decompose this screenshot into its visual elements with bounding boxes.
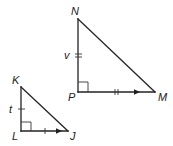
similar-triangles-diagram: N v P M K t L J	[0, 0, 173, 146]
arrow-icon-pm	[134, 89, 140, 95]
vertex-label-p: P	[68, 91, 76, 103]
triangle-klj: K t L J	[9, 74, 76, 142]
side-nm-hypotenuse	[78, 19, 155, 92]
side-label-v: v	[64, 49, 71, 61]
side-label-t: t	[9, 103, 13, 115]
vertex-label-k: K	[12, 74, 20, 86]
triangle-npm: N v P M	[64, 5, 168, 103]
right-angle-marker-p	[78, 82, 88, 92]
side-kj-hypotenuse	[21, 87, 68, 131]
arrow-icon-lj	[56, 128, 62, 134]
vertex-label-l: L	[12, 130, 18, 142]
vertex-label-n: N	[71, 5, 79, 17]
vertex-label-m: M	[158, 91, 168, 103]
right-angle-marker-l	[21, 122, 31, 131]
vertex-label-j: J	[69, 130, 76, 142]
